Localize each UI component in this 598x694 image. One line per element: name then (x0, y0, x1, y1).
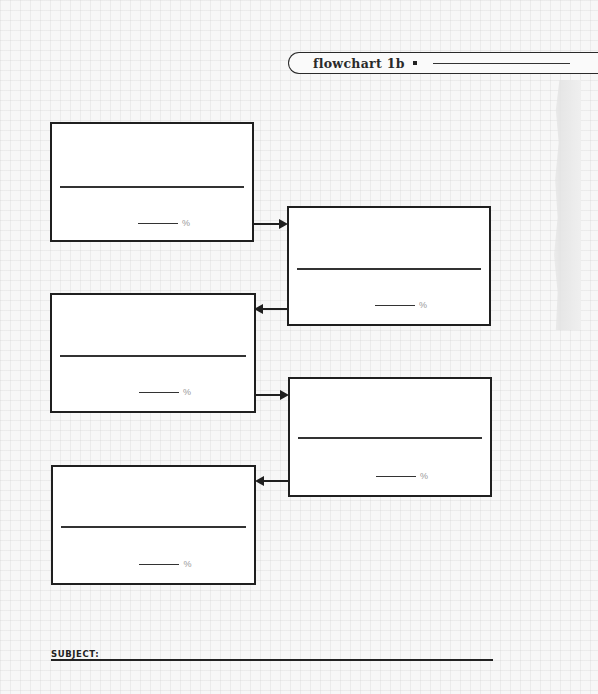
torn-paper-edge (545, 80, 581, 330)
flow-box-4[interactable]: % (288, 377, 492, 497)
percent-field[interactable]: % (53, 559, 254, 569)
subject-label: SUBJECT: (51, 649, 99, 659)
percent-field[interactable]: % (289, 300, 489, 310)
flow-box-1[interactable]: % (50, 122, 254, 242)
box-text-line[interactable] (60, 355, 246, 357)
arrow-left-icon (256, 308, 287, 310)
square-bullet-icon (413, 61, 417, 65)
percent-blank[interactable] (139, 392, 179, 394)
box-text-line[interactable] (298, 437, 482, 439)
subject-field[interactable] (51, 659, 493, 661)
percent-symbol: % (420, 471, 428, 481)
percent-symbol: % (419, 300, 427, 310)
percent-field[interactable]: % (290, 471, 490, 481)
percent-symbol: % (183, 559, 191, 569)
percent-symbol: % (182, 218, 190, 228)
percent-blank[interactable] (138, 223, 178, 225)
title-tab: flowchart 1b (288, 52, 598, 74)
worksheet-title: flowchart 1b (313, 56, 405, 71)
percent-symbol: % (183, 387, 191, 397)
arrow-left-icon (257, 480, 288, 482)
arrow-right-icon (256, 394, 287, 396)
percent-blank[interactable] (376, 476, 416, 478)
title-blank-field[interactable] (433, 63, 570, 64)
percent-field[interactable]: % (52, 218, 252, 228)
box-text-line[interactable] (60, 186, 244, 188)
percent-field[interactable]: % (52, 387, 254, 397)
flow-box-2[interactable]: % (287, 206, 491, 326)
box-text-line[interactable] (297, 268, 481, 270)
percent-blank[interactable] (375, 305, 415, 307)
flow-box-3[interactable]: % (50, 293, 256, 413)
box-text-line[interactable] (61, 526, 246, 528)
arrow-right-icon (254, 223, 286, 225)
flow-box-5[interactable]: % (51, 465, 256, 585)
percent-blank[interactable] (139, 564, 179, 566)
